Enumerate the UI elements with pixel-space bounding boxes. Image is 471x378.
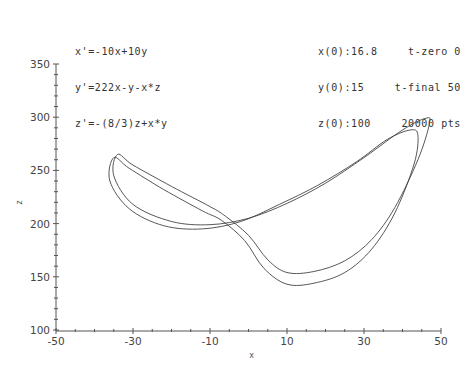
x-axis-title: x [249, 351, 254, 360]
y-tick-label: 250 [30, 164, 50, 176]
x-tick-label: 50 [434, 335, 447, 347]
x-tick-label: 10 [280, 335, 293, 347]
trajectory-curve-2 [109, 130, 418, 286]
phase-plot: 100150200250300350-50-30-10103050xz [0, 0, 471, 378]
y-axis-title: z [15, 200, 24, 204]
x-tick-label: -30 [124, 335, 141, 347]
x-tick-label: -10 [201, 335, 218, 347]
y-tick-label: 150 [30, 271, 50, 283]
y-tick-label: 300 [30, 111, 50, 123]
y-tick-label: 350 [30, 58, 50, 70]
trajectory-curve-1 [113, 118, 430, 274]
x-tick-label: -50 [47, 335, 64, 347]
x-tick-label: 30 [357, 335, 370, 347]
y-tick-label: 200 [30, 218, 50, 230]
